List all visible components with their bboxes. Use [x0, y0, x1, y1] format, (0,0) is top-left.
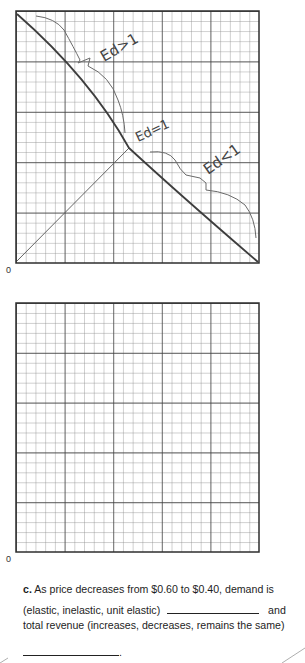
elasticity-answer-blank[interactable] — [167, 603, 259, 614]
graph-2 — [16, 303, 259, 552]
question-line-1: c. As price decreases from $0.60 to $0.4… — [23, 582, 305, 597]
question-letter: c. — [23, 583, 32, 595]
page-edge-left — [0, 658, 8, 663]
graph-2-origin-label: 0 — [6, 554, 11, 564]
conjunction-and: and — [268, 604, 286, 616]
graph-1: Ed>1 Ed=1 Ed<1 — [16, 11, 259, 263]
graph-1-origin-label: 0 — [6, 265, 11, 275]
question-prompt: As price decreases from $0.60 to $0.40, … — [34, 583, 274, 595]
graph-2-major-grid — [16, 303, 259, 552]
revenue-answer-blank[interactable] — [23, 645, 119, 656]
worksheet-graphs: Ed>1 Ed=1 Ed<1 — [0, 0, 305, 663]
question-c: c. As price decreases from $0.60 to $0.4… — [23, 582, 305, 660]
elasticity-options: (elastic, inelastic, unit elastic) — [23, 604, 160, 616]
period: . — [119, 646, 122, 658]
question-line-2: (elastic, inelastic, unit elastic) and — [23, 603, 305, 618]
question-line-3: total revenue (increases, decreases, rem… — [23, 618, 305, 633]
question-line-4: . — [23, 645, 305, 660]
